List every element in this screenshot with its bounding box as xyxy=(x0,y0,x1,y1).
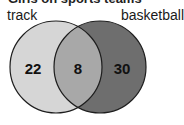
count-both: 8 xyxy=(74,60,82,77)
count-basketball-only: 30 xyxy=(114,60,131,77)
venn-diagram: 22 8 30 xyxy=(0,0,184,125)
count-track-only: 22 xyxy=(25,60,42,77)
